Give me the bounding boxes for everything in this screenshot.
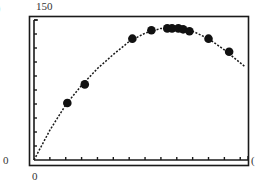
axes — [34, 20, 248, 160]
data-point — [63, 99, 72, 108]
curve-path — [34, 28, 245, 160]
data-point — [147, 26, 156, 35]
fitted-curve — [34, 28, 245, 160]
data-point — [204, 34, 213, 43]
chart-canvas — [0, 0, 256, 182]
data-point — [185, 27, 194, 36]
data-point — [80, 80, 89, 89]
data-point — [128, 34, 137, 43]
data-point — [225, 47, 234, 56]
data-points — [63, 24, 233, 107]
outer-frame — [30, 17, 249, 166]
